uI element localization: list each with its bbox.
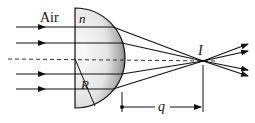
- refracted-rays: [113, 27, 248, 89]
- radius-r-label: R: [80, 77, 89, 92]
- index-n-label: n: [79, 11, 86, 26]
- air-label: Air: [40, 10, 59, 25]
- image-i-label: I: [197, 43, 204, 58]
- hemisphere-lens-diagram: Air n R I q: [0, 0, 255, 123]
- ray-arrow-icons: [38, 24, 46, 92]
- distance-q-label: q: [158, 99, 165, 114]
- q-start-dot: [120, 105, 124, 109]
